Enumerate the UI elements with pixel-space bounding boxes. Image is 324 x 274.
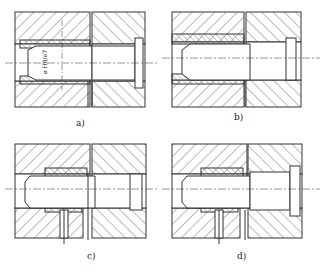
fit-annotation: ø H8/e7 bbox=[41, 50, 48, 74]
panel-label-c: c) bbox=[87, 251, 96, 261]
panel-label-a: a) bbox=[76, 118, 85, 128]
panel-b bbox=[162, 12, 320, 107]
panel-a bbox=[5, 12, 158, 107]
drawing-canvas bbox=[0, 0, 324, 274]
panel-label-b: b) bbox=[234, 112, 243, 122]
panel-d bbox=[162, 144, 320, 244]
panel-c bbox=[5, 144, 158, 244]
panel-label-d: d) bbox=[237, 251, 246, 261]
